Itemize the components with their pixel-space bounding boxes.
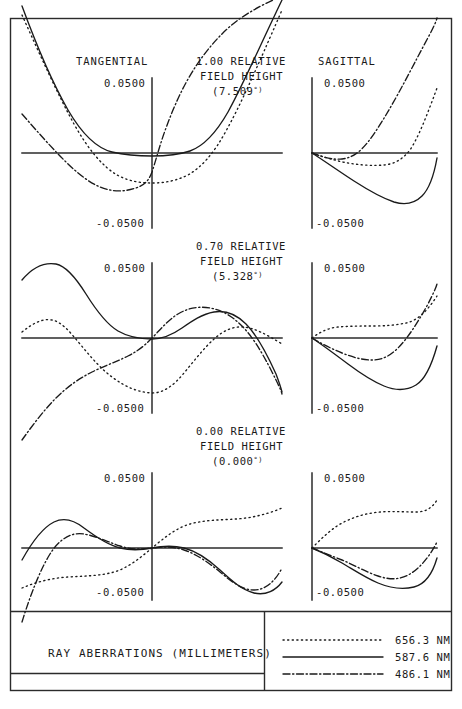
tangential-0-00-ytick-bottom: -0.0500 (96, 586, 144, 598)
ray-aberration-plot: TANGENTIAL SAGITTAL 1.00 RELATIVE FIELD … (0, 0, 462, 709)
field-1-00-angle: (7.509°) (212, 85, 263, 97)
field-0-70-height-label: FIELD HEIGHT (200, 255, 283, 267)
field-1-00-relative: 1.00 RELATIVE (196, 55, 286, 67)
sagittal-0-70-curves (312, 284, 437, 390)
field-0-00-angle: (0.000°) (212, 455, 263, 467)
sagittal-1-00-ytick-top: 0.0500 (324, 77, 366, 89)
curve-656-3-nm (312, 296, 437, 338)
curve-587-6-nm (312, 153, 437, 204)
legend-label-486-1-nm: 486.1 NM (395, 668, 450, 680)
tangential-1-00-ytick-top: 0.0500 (104, 77, 146, 89)
tangential-0-70-ytick-bottom: -0.0500 (96, 402, 144, 414)
field-block-1-00: 1.00 RELATIVE FIELD HEIGHT (7.509°) 0.05… (22, 0, 437, 229)
tangential-1-00-ytick-bottom: -0.0500 (96, 217, 144, 229)
field-0-70-relative: 0.70 RELATIVE (196, 240, 286, 252)
field-0-00-relative: 0.00 RELATIVE (196, 425, 286, 437)
panel-tangential-0-00: 0.0500 -0.0500 (22, 472, 282, 622)
field-block-0-70: 0.70 RELATIVE FIELD HEIGHT (5.328°) 0.05… (22, 240, 437, 440)
curve-656-3-nm (312, 500, 437, 548)
panel-sagittal-0-70: 0.0500 -0.0500 (312, 262, 437, 414)
legend: 656.3 NM 587.6 NM 486.1 NM (283, 634, 450, 680)
panel-tangential-1-00: 0.0500 -0.0500 (22, 0, 282, 229)
column-header-tangential: TANGENTIAL (76, 55, 148, 67)
field-0-70-angle: (5.328°) (212, 270, 263, 282)
sagittal-0-70-ytick-bottom: -0.0500 (316, 402, 364, 414)
legend-label-587-6-nm: 587.6 NM (395, 651, 450, 663)
panel-sagittal-0-00: 0.0500 -0.0500 (312, 472, 437, 600)
field-block-0-00: 0.00 RELATIVE FIELD HEIGHT (0.000°) 0.05… (22, 425, 437, 622)
figure-canvas: TANGENTIAL SAGITTAL 1.00 RELATIVE FIELD … (0, 0, 462, 709)
sagittal-0-00-ytick-top: 0.0500 (324, 472, 366, 484)
field-0-00-height-label: FIELD HEIGHT (200, 440, 283, 452)
tangential-0-70-ytick-top: 0.0500 (104, 262, 146, 274)
sagittal-1-00-curves (312, 18, 437, 204)
sagittal-0-70-ytick-top: 0.0500 (324, 262, 366, 274)
tangential-0-00-ytick-top: 0.0500 (104, 472, 146, 484)
column-header-sagittal: SAGITTAL (318, 55, 376, 67)
sagittal-0-00-curves (312, 500, 437, 588)
page-title: RAY ABERRATIONS (MILLIMETERS) (48, 647, 272, 660)
panel-tangential-0-70: 0.0500 -0.0500 (22, 262, 282, 440)
field-1-00-height-label: FIELD HEIGHT (200, 70, 283, 82)
curve-486-1-nm (312, 284, 437, 360)
panel-sagittal-1-00: 0.0500 -0.0500 (312, 18, 437, 229)
sagittal-0-00-ytick-bottom: -0.0500 (316, 586, 364, 598)
sagittal-1-00-ytick-bottom: -0.0500 (316, 217, 364, 229)
outer-border (11, 19, 452, 691)
curve-587-6-nm (312, 338, 437, 390)
legend-label-656-3-nm: 656.3 NM (395, 634, 450, 646)
curve-656-3-nm (312, 88, 437, 165)
